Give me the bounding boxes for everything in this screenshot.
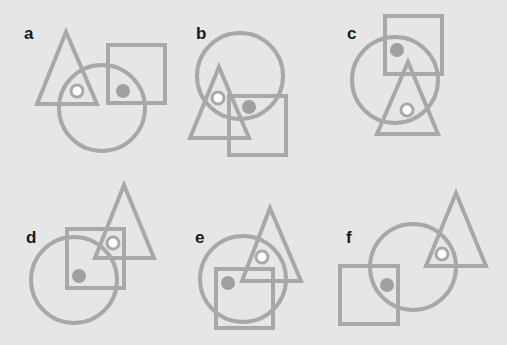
- panel-f: f: [340, 193, 486, 324]
- panel-label: a: [24, 24, 34, 43]
- white-dot: [401, 104, 413, 116]
- white-dot: [212, 92, 224, 104]
- gray-dot: [380, 278, 394, 292]
- white-dot: [256, 251, 268, 263]
- gray-dot: [221, 276, 235, 290]
- white-dot: [107, 237, 119, 249]
- gray-dot: [242, 100, 256, 114]
- panel-a: a: [24, 24, 165, 151]
- panel-b: b: [190, 24, 286, 155]
- gray-dot: [390, 43, 404, 57]
- panel-label: e: [195, 228, 204, 247]
- panel-label: c: [347, 24, 356, 43]
- panel-label: f: [346, 228, 352, 247]
- circle-shape: [59, 65, 145, 151]
- square-shape: [229, 96, 286, 155]
- shape-puzzle-diagram: abcdef: [0, 0, 507, 345]
- panel-d: d: [26, 185, 154, 323]
- panel-e: e: [195, 208, 301, 328]
- panel-label: d: [26, 228, 36, 247]
- white-dot: [71, 85, 83, 97]
- panel-label: b: [196, 24, 206, 43]
- gray-dot: [116, 84, 130, 98]
- gray-dot: [72, 269, 86, 283]
- square-shape: [108, 45, 165, 103]
- white-dot: [436, 248, 448, 260]
- circle-shape: [197, 33, 283, 119]
- panel-c: c: [347, 16, 442, 134]
